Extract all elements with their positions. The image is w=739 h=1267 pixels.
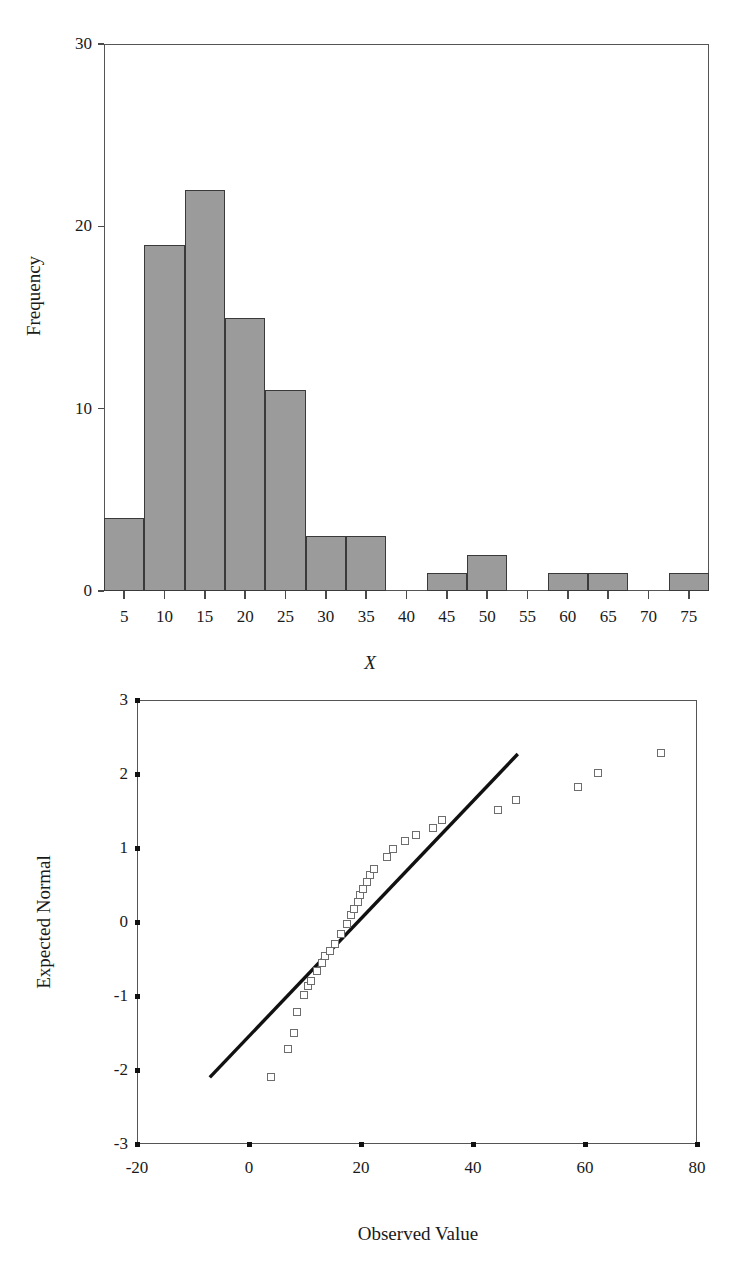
histogram-x-tick-label: 10: [156, 607, 173, 627]
histogram-x-tick-label: 35: [358, 607, 375, 627]
histogram-bar: [588, 573, 628, 591]
qq-data-point: [284, 1045, 292, 1053]
histogram-x-tick: [688, 591, 690, 599]
histogram-x-tick-label: 75: [680, 607, 697, 627]
qq-data-point: [438, 816, 446, 824]
histogram-x-tick: [486, 591, 488, 599]
qq-x-tick-label: 40: [465, 1158, 482, 1178]
histogram-x-tick-label: 20: [237, 607, 254, 627]
histogram-bar: [306, 536, 346, 591]
qq-x-tick-label: 60: [577, 1158, 594, 1178]
histogram-x-tick: [406, 591, 408, 599]
qq-y-tick: [135, 698, 140, 703]
histogram-plot-area: [104, 44, 709, 591]
qq-data-point: [293, 1008, 301, 1016]
histogram-x-tick-label: 45: [438, 607, 455, 627]
qq-x-tick: [583, 1142, 588, 1147]
qq-y-tick-label: 0: [90, 912, 128, 932]
qq-data-point: [300, 991, 308, 999]
histogram-x-tick-label: 5: [120, 607, 129, 627]
qq-reference-line: [137, 700, 697, 1144]
qq-x-tick: [695, 1142, 700, 1147]
qq-x-tick: [135, 1142, 140, 1147]
qq-data-point: [337, 930, 345, 938]
histogram-x-tick: [164, 591, 166, 599]
histogram-bar: [346, 536, 386, 591]
qq-data-point: [412, 831, 420, 839]
qq-y-tick-label: -3: [90, 1134, 128, 1154]
qq-data-point: [389, 845, 397, 853]
qq-y-tick: [135, 920, 140, 925]
histogram-x-tick-label: 30: [317, 607, 334, 627]
qq-data-point: [290, 1029, 298, 1037]
histogram-bar: [185, 190, 225, 591]
qq-data-point: [512, 796, 520, 804]
histogram-x-tick-label: 50: [479, 607, 496, 627]
histogram-x-tick-label: 40: [398, 607, 415, 627]
histogram-x-tick: [607, 591, 609, 599]
qq-data-point: [370, 865, 378, 873]
histogram-panel: Frequency X 0102030 51015202530354045505…: [0, 0, 739, 640]
qq-x-tick-label: 20: [353, 1158, 370, 1178]
histogram-x-tick-label: 70: [640, 607, 657, 627]
histogram-x-tick-label: 60: [559, 607, 576, 627]
qq-y-tick-label: 1: [90, 838, 128, 858]
qq-data-point: [383, 853, 391, 861]
qq-data-point: [267, 1073, 275, 1081]
normal-qq-plot-panel: Expected Normal Observed Value 3210-1-2-…: [0, 640, 739, 1267]
qq-data-point: [313, 967, 321, 975]
histogram-x-tick: [244, 591, 246, 599]
qq-y-tick: [135, 994, 140, 999]
histogram-x-tick-label: 25: [277, 607, 294, 627]
qq-y-axis-title: Expected Normal: [33, 855, 55, 988]
qq-plot-area: [137, 700, 697, 1144]
histogram-bar: [467, 555, 507, 591]
qq-x-tick-label: -20: [126, 1158, 149, 1178]
histogram-bar: [104, 518, 144, 591]
qq-x-tick-label: 0: [245, 1158, 254, 1178]
qq-y-tick-label: -2: [90, 1060, 128, 1080]
histogram-x-tick: [365, 591, 367, 599]
qq-y-tick-label: 2: [90, 764, 128, 784]
histogram-x-tick: [123, 591, 125, 599]
histogram-x-tick-label: 55: [519, 607, 536, 627]
histogram-bar: [669, 573, 709, 591]
qq-data-point: [574, 783, 582, 791]
qq-x-tick-label: 80: [689, 1158, 706, 1178]
histogram-bar: [265, 390, 305, 591]
histogram-x-tick: [285, 591, 287, 599]
histogram-y-tick-label: 0: [58, 581, 92, 601]
qq-data-point: [401, 837, 409, 845]
histogram-x-tick: [567, 591, 569, 599]
qq-data-point: [307, 977, 315, 985]
histogram-x-tick: [648, 591, 650, 599]
histogram-bar: [144, 245, 184, 591]
histogram-y-tick-label: 10: [58, 399, 92, 419]
qq-data-point: [429, 824, 437, 832]
histogram-x-tick: [527, 591, 529, 599]
histogram-x-tick-label: 15: [196, 607, 213, 627]
histogram-y-tick-label: 30: [58, 34, 92, 54]
histogram-bar: [548, 573, 588, 591]
qq-x-tick: [359, 1142, 364, 1147]
histogram-x-tick: [446, 591, 448, 599]
qq-data-point: [343, 920, 351, 928]
qq-x-axis-title: Observed Value: [358, 1223, 478, 1245]
qq-data-point: [331, 940, 339, 948]
qq-y-tick-label: -1: [90, 986, 128, 1006]
qq-data-point: [318, 959, 326, 967]
histogram-bar: [225, 318, 265, 592]
histogram-y-tick-label: 20: [58, 216, 92, 236]
histogram-y-axis-title: Frequency: [23, 256, 45, 336]
histogram-bar: [427, 573, 467, 591]
qq-y-tick: [135, 846, 140, 851]
qq-y-tick-label: 3: [90, 690, 128, 710]
histogram-x-tick: [325, 591, 327, 599]
histogram-x-tick-label: 65: [600, 607, 617, 627]
qq-x-tick: [471, 1142, 476, 1147]
qq-y-tick: [135, 1068, 140, 1073]
qq-data-point: [657, 749, 665, 757]
histogram-x-tick: [204, 591, 206, 599]
qq-data-point: [494, 806, 502, 814]
qq-y-tick: [135, 772, 140, 777]
